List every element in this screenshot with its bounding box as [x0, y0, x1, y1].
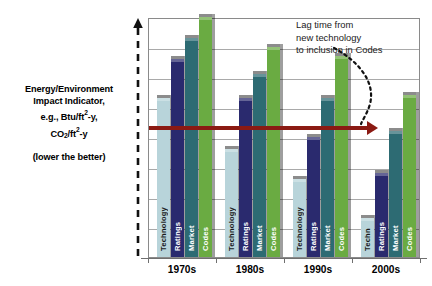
bar-market-1980s: Market	[253, 74, 266, 257]
bar-highlight	[267, 47, 280, 50]
x-axis-label-1970s: 1970s	[147, 264, 217, 275]
bar-ratings-1970s: Ratings	[171, 59, 184, 257]
caption-line-4: CO2/ft2-y	[50, 129, 87, 139]
bar-group-1970s: TechnologyRatingsMarketCodes	[157, 17, 212, 257]
bar-highlight	[253, 74, 266, 77]
bar-label: Ratings	[239, 102, 252, 251]
bar-codes-2000s: Codes	[403, 95, 416, 257]
bar-label: Market	[389, 135, 402, 251]
bar-market-2000s: Market	[389, 131, 402, 257]
bar-highlight	[307, 137, 320, 140]
bar-label: Ratings	[171, 63, 184, 251]
annotation-line-1: Lag time from	[296, 19, 428, 32]
bar-highlight	[199, 17, 212, 20]
x-axis-tick	[216, 258, 217, 263]
lower-the-better-note: (lower the better)	[6, 152, 132, 164]
bar-label: Codes	[403, 99, 416, 251]
bar-ratings-1990s: Ratings	[307, 137, 320, 257]
bar-label: Technology	[225, 153, 238, 251]
bar-market-1970s: Market	[185, 38, 198, 257]
annotation-pointer-icon	[330, 46, 390, 126]
bar-technology-1970s: Technology	[157, 98, 170, 257]
caption-line-1: Energy/Environment	[25, 84, 113, 94]
bar-label: Codes	[199, 21, 212, 251]
bar-label: Codes	[267, 51, 280, 251]
bar-codes-1980s: Codes	[267, 47, 280, 257]
bar-highlight	[403, 95, 416, 98]
y-axis-caption: Energy/Environment Impact Indicator, e.g…	[6, 84, 132, 164]
vertical-axis-arrow-icon	[129, 18, 147, 262]
x-axis-label-1980s: 1980s	[215, 264, 285, 275]
bar-highlight	[157, 98, 170, 101]
bar-label: Ratings	[375, 177, 388, 251]
x-axis-label-1990s: 1990s	[283, 264, 353, 275]
bar-label: Techn	[361, 222, 374, 251]
bar-highlight	[375, 173, 388, 176]
caption-line-2: Impact Indicator,	[33, 96, 104, 106]
x-axis-tick	[148, 258, 149, 263]
x-axis-tick	[352, 258, 353, 263]
bar-highlight	[185, 38, 198, 41]
bar-highlight	[239, 98, 252, 101]
bar-label: Technology	[293, 183, 306, 251]
bar-technology-1990s: Technology	[293, 179, 306, 257]
bar-technology-2000s: Techn	[361, 218, 374, 257]
bar-label: Market	[185, 42, 198, 251]
bar-label: Technology	[157, 102, 170, 251]
bar-highlight	[389, 131, 402, 134]
bar-highlight	[225, 149, 238, 152]
x-axis-tick	[284, 258, 285, 263]
bar-ratings-2000s: Ratings	[375, 173, 388, 257]
bar-codes-1970s: Codes	[199, 17, 212, 257]
lag-time-arrow-line	[149, 126, 369, 130]
bar-highlight	[293, 179, 306, 182]
caption-line-3: e.g., Btu/ft2-y,	[40, 112, 97, 122]
bar-highlight	[171, 59, 184, 62]
bar-technology-1980s: Technology	[225, 149, 238, 257]
bar-label: Market	[253, 78, 266, 251]
x-axis-tick	[420, 258, 421, 263]
bar-group-1980s: TechnologyRatingsMarketCodes	[225, 17, 280, 257]
bar-ratings-1980s: Ratings	[239, 98, 252, 257]
bar-highlight	[361, 218, 374, 221]
x-axis-label-2000s: 2000s	[351, 264, 421, 275]
annotation-line-2: new technology	[296, 32, 428, 45]
bar-label: Ratings	[307, 141, 320, 251]
